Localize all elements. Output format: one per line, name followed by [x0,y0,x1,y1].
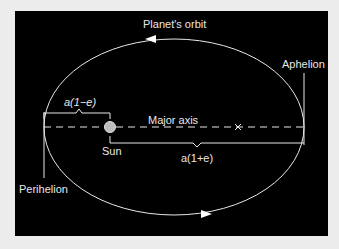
perihelion-distance-label: a(1−e) [64,96,96,108]
orbit-diagram: Planet's orbit Aphelion Perihelion Major… [0,0,339,249]
aphelion-label: Aphelion [282,58,325,70]
perihelion-label: Perihelion [19,183,68,195]
orbit-label: Planet's orbit [143,18,206,30]
perihelion-distance-bracket [44,109,110,119]
sun-icon [105,122,116,133]
major-axis-label: Major axis [148,114,199,126]
sun-label: Sun [102,145,122,157]
orbit-direction-arrow-top [145,35,156,43]
aphelion-distance-label: a(1+e) [181,152,213,164]
aphelion-distance-bracket [110,136,304,147]
